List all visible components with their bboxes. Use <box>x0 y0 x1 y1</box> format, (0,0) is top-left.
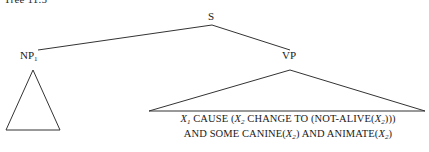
np-node-subscript: 1 <box>34 55 38 63</box>
formula-predicate-canine: AND SOME CANINE( <box>184 128 286 139</box>
variable-x1: X <box>180 113 187 124</box>
s-to-np-edge <box>38 25 212 50</box>
variable-x2-d-subscript: 2 <box>385 133 389 141</box>
variable-x2-c-subscript: 2 <box>292 133 296 141</box>
np-node: NP1 <box>20 50 38 61</box>
s-node-label: S <box>208 10 214 22</box>
vp-node-label: VP <box>282 49 296 61</box>
formula-line-2-closing: ) <box>389 128 393 139</box>
formula-predicate-animate: ) AND ANIMATE( <box>296 128 378 139</box>
variable-x2-b-subscript: 2 <box>381 118 385 126</box>
vp-node: VP <box>282 50 296 61</box>
formula-line-1-closing: ))) <box>385 113 396 124</box>
s-to-vp-edge <box>212 25 290 50</box>
logical-form-line-1: X1 CAUSE (X2 CHANGE TO (NOT-ALIVE(X2))) <box>148 112 428 127</box>
formula-operator-change-to: CHANGE TO (NOT-ALIVE( <box>245 113 375 124</box>
variable-x2-d: X <box>378 128 385 139</box>
logical-form-line-2: AND SOME CANINE(X2) AND ANIMATE(X2) <box>148 127 428 142</box>
s-node: S <box>208 11 214 22</box>
np-node-label: NP <box>20 49 34 61</box>
syntax-tree-figure: Tree 11.5 S NP1 VP X1 CAUSE (X2 CHANGE T… <box>0 0 429 152</box>
np-triangle <box>6 70 60 130</box>
formula-operator-cause: CAUSE ( <box>191 113 235 124</box>
logical-form-text: X1 CAUSE (X2 CHANGE TO (NOT-ALIVE(X2))) … <box>148 112 428 142</box>
variable-x2-a-subscript: 2 <box>241 118 245 126</box>
variable-x1-subscript: 1 <box>187 118 191 126</box>
vp-triangle <box>149 70 425 111</box>
